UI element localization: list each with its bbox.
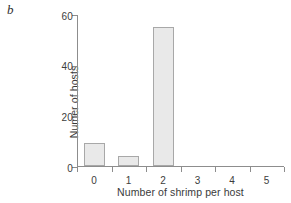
x-tick-mark [284,167,285,172]
x-tick-label-1: 1 [126,175,132,186]
bar-0 [84,143,105,166]
y-tick-label: 20 [61,111,73,122]
x-axis-title: Number of shrimp per host [77,186,284,198]
bar-1 [118,156,139,166]
x-tick-mark [77,167,78,172]
x-tick-mark [181,167,182,172]
x-tick-mark [250,167,251,172]
x-tick-label-4: 4 [229,175,235,186]
y-tick-label: 40 [61,61,73,72]
x-tick-mark [146,167,147,172]
y-tick-label: 60 [61,10,73,21]
x-tick-label-0: 0 [91,175,97,186]
figure-panel-b: b Numer of hosts Number of shrimp per ho… [0,0,291,203]
x-tick-label-2: 2 [160,175,166,186]
x-tick-mark [112,167,113,172]
x-tick-mark [215,167,216,172]
bar-2 [153,27,174,166]
y-axis-line [77,15,78,167]
y-tick-label: 0 [67,162,73,173]
x-tick-label-3: 3 [195,175,201,186]
x-tick-label-5: 5 [264,175,270,186]
panel-label: b [7,3,14,16]
plot-area: 0204060 012345 [77,15,284,167]
